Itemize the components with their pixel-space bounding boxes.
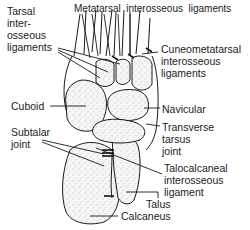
label-talus: Talus [146,198,171,210]
label-talocalcaneal-interosseous-ligament: Talocalcaneal interosseous ligament [164,162,228,198]
label-metatarsal-interosseous-ligaments: Metatarsal interosseous ligaments [74,3,231,15]
label-cuneometatarsal-interosseous-ligaments: Cuneometatarsal interosseous ligaments [161,43,241,79]
medial-cuneiform [132,56,152,90]
talar-head [93,119,145,143]
intermediate-cuneiform [116,59,130,84]
label-cuboid: Cuboid [11,100,44,112]
label-calcaneus: Calcaneus [121,210,171,222]
navicular-bone [108,89,149,120]
label-tarsal-interosseous-ligaments: Tarsal inter- osseous ligaments [7,5,52,53]
lateral-cuneiform [96,59,114,86]
label-subtalar-joint: Subtalar joint [11,126,50,150]
label-transverse-tarsus-joint: Transverse tarsus joint [162,121,214,157]
label-navicular: Navicular [162,103,206,115]
